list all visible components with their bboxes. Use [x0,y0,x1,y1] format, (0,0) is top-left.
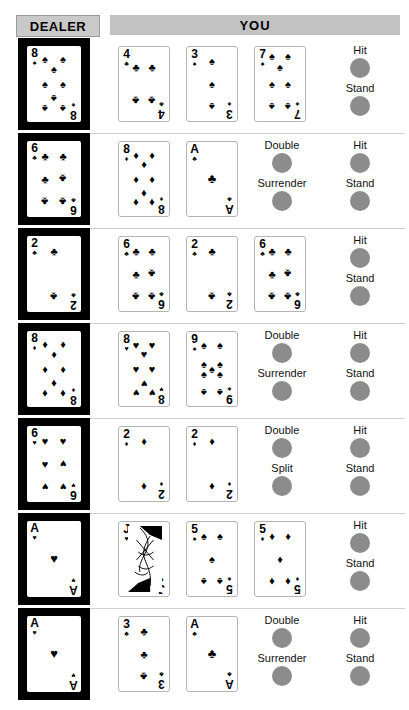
action-button-double[interactable] [272,343,292,363]
action-surrender[interactable]: Surrender [250,177,314,211]
pip-diamond-icon: ♦ [277,554,283,564]
action-label: Hit [328,329,392,342]
pip-spade-icon: ♠ [201,388,207,398]
pip-diamond-icon: ♦ [209,436,215,446]
dealer-upcard-cell: 8♠8♠♠♠♠♠♠♠♠♠ [18,38,90,130]
action-stand[interactable]: Stand [328,82,392,116]
action-double[interactable]: Double [250,329,314,363]
pip-heart-icon: ♥ [42,436,49,446]
hand-row: A♥A♥♥3♣3♣♣♣♣A♣A♣♣DoubleSurrenderHitStand [0,608,409,703]
pip-heart-icon: ♥ [42,459,49,469]
action-button-double[interactable] [272,438,292,458]
action-label: Stand [328,367,392,380]
pip-spade-icon: ♠ [42,54,48,64]
action-label: Stand [328,272,392,285]
card-pips: ♦♦ [196,430,228,498]
pip-club-icon: ♣ [132,96,139,106]
playing-card: 4♣4♣♣♣♣♣ [118,46,170,122]
playing-card: 8♦8♦♦♦♦♦♦♦♦♦ [118,141,170,217]
dealer-upcard-cell: 8♦8♦♦♦♦♦♦♦♦♦ [18,323,90,415]
pip-spade-icon: ♠ [209,102,215,112]
pip-spade-icon: ♠ [51,94,57,104]
pip-spade-icon: ♠ [285,102,291,112]
pip-diamond-icon: ♦ [60,364,66,374]
pip-diamond-icon: ♦ [269,577,275,587]
action-button-surrender[interactable] [272,191,292,211]
action-stand[interactable]: Stand [328,272,392,306]
pip-heart-icon: ♥ [133,388,140,398]
action-stand[interactable]: Stand [328,557,392,591]
action-stand[interactable]: Stand [328,652,392,686]
action-button-surrender[interactable] [272,381,292,401]
action-hit[interactable]: Hit [328,614,392,648]
action-button-hit[interactable] [350,438,370,458]
action-stand[interactable]: Stand [328,367,392,401]
pip-diamond-icon: ♦ [141,189,147,199]
hand-row: 6♥6♥♥♥♥♥♥♥2♦2♦♦♦2♦2♦♦♦DoubleSplitHitStan… [0,418,409,513]
pip-spade-icon: ♠ [209,554,215,564]
pip-spade-icon: ♠ [277,62,283,72]
pip-diamond-icon: ♦ [42,339,48,349]
action-double[interactable]: Double [250,424,314,458]
action-button-stand[interactable] [350,571,370,591]
pip-spade-icon: ♠ [209,56,215,66]
you-column-header: YOU [110,15,400,35]
action-stand[interactable]: Stand [328,177,392,211]
action-split[interactable]: Split [250,462,314,496]
action-surrender[interactable]: Surrender [250,652,314,686]
action-button-stand[interactable] [350,381,370,401]
card-pips: ♦♦♦♦♦♦♦♦ [36,334,72,404]
player-card-slot: 6♣6♣♣♣♣♣♣♣ [254,236,306,312]
action-button-surrender[interactable] [272,666,292,686]
action-button-double[interactable] [272,628,292,648]
action-hit[interactable]: Hit [328,424,392,458]
action-button-split[interactable] [272,476,292,496]
action-button-stand[interactable] [350,96,370,116]
pip-club-icon: ♣ [148,96,155,106]
action-hit[interactable]: Hit [328,329,392,363]
pip-spade-icon: ♠ [217,340,223,350]
action-button-hit[interactable] [350,248,370,268]
action-hit[interactable]: Hit [328,234,392,268]
player-card-slot: 8♦8♦♦♦♦♦♦♦♦♦ [118,141,170,217]
action-hit[interactable]: Hit [328,519,392,553]
action-button-stand[interactable] [350,191,370,211]
action-stand[interactable]: Stand [328,462,392,496]
pip-club-icon: ♣ [132,246,139,256]
pip-spade-icon: ♠ [217,369,223,379]
dealer-upcard-cell: 6♣6♣♣♣♣♣♣♣ [18,133,90,225]
action-double[interactable]: Double [250,614,314,648]
action-button-hit[interactable] [350,153,370,173]
pip-diamond-icon: ♦ [51,379,57,389]
action-button-hit[interactable] [350,58,370,78]
pip-club-icon: ♣ [284,269,291,279]
action-button-hit[interactable] [350,628,370,648]
action-hit[interactable]: Hit [328,139,392,173]
dealer-upcard-cell: A♥A♥♥ [18,608,90,700]
action-double[interactable]: Double [250,139,314,173]
player-card-slot: 4♣4♣♣♣♣♣ [118,46,170,122]
playing-card: 2♣2♣♣♣ [27,236,81,312]
action-button-stand[interactable] [350,286,370,306]
action-hit[interactable]: Hit [328,44,392,78]
pip-diamond-icon: ♦ [133,174,139,184]
action-button-stand[interactable] [350,476,370,496]
action-button-hit[interactable] [350,343,370,363]
action-button-hit[interactable] [350,533,370,553]
player-card-slot: 9♠9♠♠♠♠♠♠♠♠♠♠ [186,331,238,407]
player-card-slot: A♣A♣♣ [186,141,238,217]
action-column-left: DoubleSurrender [250,139,314,215]
action-surrender[interactable]: Surrender [250,367,314,401]
action-label: Double [250,424,314,437]
action-column-right: HitStand [328,519,392,595]
card-pips: ♥ [36,619,72,689]
card-pips: ♥♥♥♥♥♥ [36,429,72,499]
action-button-stand[interactable] [350,666,370,686]
action-button-double[interactable] [272,153,292,173]
action-label: Hit [328,44,392,57]
pip-club-icon: ♣ [140,649,147,659]
pip-club-icon: ♣ [41,174,48,184]
pip-club-icon: ♣ [148,292,155,302]
pip-club-icon: ♣ [140,672,147,682]
action-label: Double [250,139,314,152]
